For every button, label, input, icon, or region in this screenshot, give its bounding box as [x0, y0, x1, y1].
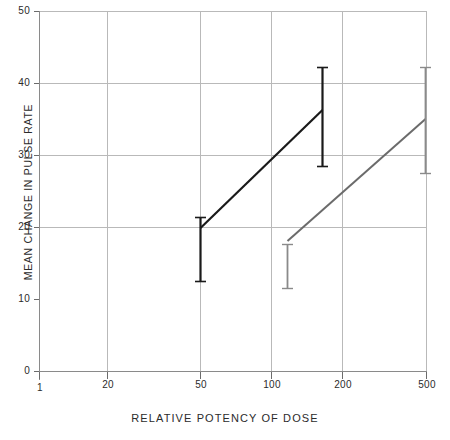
- x-tick-label-100: 100: [256, 380, 288, 390]
- chart-container: 50 40 30 20 10 0 1 20 50 100 200 500 MEA…: [0, 0, 450, 440]
- x-tick-label-50: 50: [188, 380, 214, 390]
- x-tick-label-500: 500: [411, 380, 443, 390]
- y-tick-label-0: 0: [4, 366, 30, 376]
- x-axis-title: RELATIVE POTENCY OF DOSE: [0, 412, 450, 424]
- y-tick-label-50: 50: [4, 6, 30, 16]
- x-tick-label-1: 1: [29, 383, 51, 393]
- y-tick-label-40: 40: [4, 78, 30, 88]
- y-tick-marks: [34, 12, 39, 372]
- x-tick-label-20: 20: [95, 380, 121, 390]
- x-tick-marks: [40, 372, 427, 379]
- y-tick-label-10: 10: [4, 294, 30, 304]
- y-axis-title: MEAN CHANGE IN PULSE RATE: [22, 92, 34, 292]
- plot-background: [39, 11, 427, 372]
- x-tick-label-200: 200: [327, 380, 359, 390]
- chart-plot-area: [0, 0, 450, 440]
